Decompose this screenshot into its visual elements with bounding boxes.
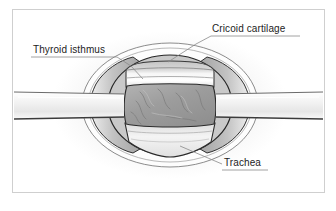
cricoid-cartilage-body	[126, 61, 214, 87]
anatomical-illustration	[0, 0, 336, 211]
label-thyroid-isthmus: Thyroid isthmus	[33, 44, 105, 55]
label-trachea: Trachea	[224, 157, 261, 168]
label-cricoid-cartilage: Cricoid cartilage	[212, 23, 285, 34]
retractor-blade-right	[216, 92, 323, 119]
figure-root: Cricoid cartilage Thyroid isthmus Trache…	[0, 0, 336, 211]
retractor-blade-left	[14, 92, 124, 119]
